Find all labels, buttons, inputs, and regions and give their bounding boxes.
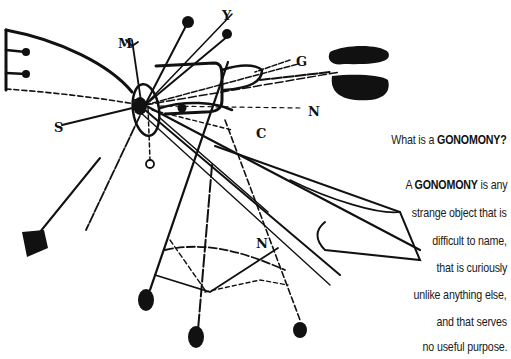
letter-m: M bbox=[118, 36, 132, 51]
question-term: GONOMONY bbox=[437, 132, 500, 147]
definition-suffix: is any bbox=[477, 177, 507, 192]
question-mark: ? bbox=[501, 132, 507, 147]
letter-n-top: N bbox=[308, 104, 320, 119]
definition-term: GONOMONY bbox=[414, 177, 477, 192]
letter-n-bottom: N bbox=[256, 236, 268, 251]
caption-definition-line-1: A GONOMONY is any bbox=[405, 177, 507, 192]
letter-g: G bbox=[296, 54, 307, 69]
definition-prefix: A bbox=[405, 177, 414, 192]
caption-line-4: that is curiously bbox=[436, 260, 507, 275]
caption-line-7: no useful purpose. bbox=[422, 339, 507, 354]
caption-line-5: unlike anything else, bbox=[414, 287, 507, 302]
caption-line-6: and that serves bbox=[437, 314, 507, 329]
caption-line-3: difficult to name, bbox=[433, 233, 507, 248]
caption-line-2: strange object that is bbox=[412, 205, 507, 220]
letter-s: S bbox=[54, 120, 63, 135]
letter-c: C bbox=[256, 126, 266, 141]
question-prefix: What is a bbox=[392, 132, 438, 147]
caption-question: What is a GONOMONY? bbox=[392, 132, 507, 147]
letter-y: Y bbox=[221, 8, 232, 23]
